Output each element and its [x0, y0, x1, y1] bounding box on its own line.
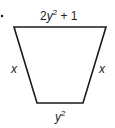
trapezoid-shape — [14, 27, 106, 103]
right-leg-label: x — [98, 62, 106, 76]
trapezoid-diagram: 2y2 + 1 x x y2 — [0, 0, 115, 128]
top-label-constant: + 1 — [57, 9, 78, 23]
bottom-base-label: y2 — [54, 109, 66, 124]
bullet-dot — [1, 15, 4, 18]
left-leg-label: x — [10, 62, 18, 76]
bottom-label-exponent: 2 — [61, 109, 66, 118]
top-base-label: 2y2 + 1 — [40, 8, 78, 23]
